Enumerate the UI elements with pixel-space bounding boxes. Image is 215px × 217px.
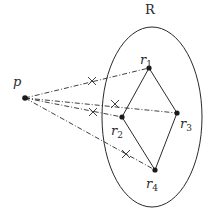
ray-p-to-r3 — [25, 98, 177, 113]
vertex-points: r1r2r3r4 — [111, 52, 192, 193]
point-p-label: p — [13, 74, 22, 89]
vertex-r4-label: r4 — [146, 176, 158, 193]
dash-dot-rays — [25, 68, 177, 170]
ray-p-to-r1 — [25, 68, 149, 98]
edge-r1-r3 — [149, 68, 177, 113]
edge-r3-r4 — [155, 113, 177, 170]
vertex-r3-dot — [174, 110, 179, 115]
visibility-diagram: R r1r2r3r4 p — [0, 0, 215, 217]
cross-mark-icon — [122, 150, 130, 158]
vertex-r2-label: r2 — [111, 123, 123, 140]
region-label: R — [145, 2, 156, 17]
vertex-r2-dot — [119, 114, 124, 119]
point-p-dot — [22, 95, 28, 101]
edge-r4-r2 — [122, 117, 155, 170]
vertex-r1-label: r1 — [140, 52, 152, 69]
vertex-r3-label: r3 — [180, 116, 192, 133]
ray-p-to-r2 — [25, 98, 122, 117]
vertex-r4-dot — [152, 167, 157, 172]
quadrilateral-edges — [122, 68, 177, 170]
